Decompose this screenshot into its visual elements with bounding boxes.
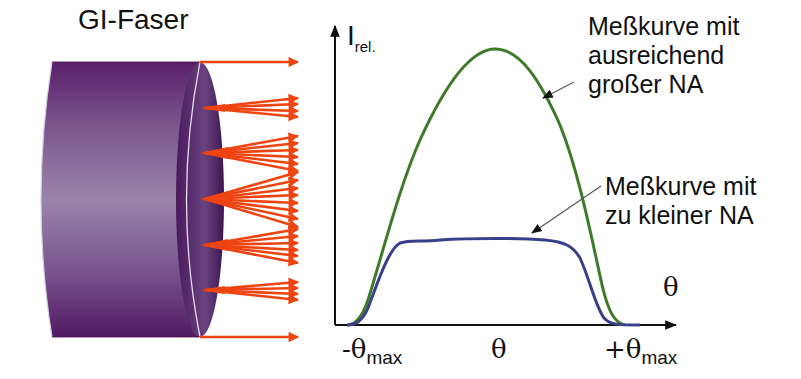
gi-fiber-cylinder <box>41 62 224 337</box>
x-tick-neg-theta-max: -θmax <box>342 334 402 369</box>
x-tick-pos-theta-max: +θmax <box>604 334 677 369</box>
annotation-small-na: Meßkurve mit zu kleiner NA <box>605 172 756 230</box>
annotation-arrow-small-na <box>532 186 601 233</box>
x-axis-label: θ <box>663 272 679 302</box>
curve-large-na <box>347 49 625 325</box>
x-tick-theta: θ <box>491 334 507 364</box>
annotation-large-na: Meßkurve mit ausreichend großer NA <box>588 12 739 99</box>
y-axis-label: Irel. <box>347 20 376 55</box>
annotation-arrow-large-na <box>543 82 574 98</box>
